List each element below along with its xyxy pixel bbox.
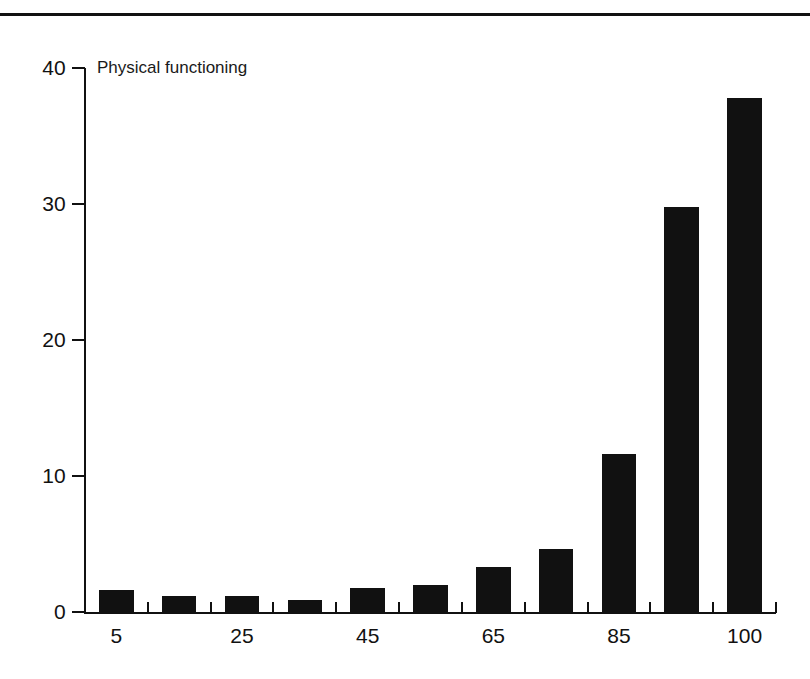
x-tick-label: 100 <box>705 624 785 648</box>
bar <box>225 596 260 612</box>
bar <box>602 454 637 612</box>
y-tick-mark <box>72 475 85 477</box>
bar <box>350 588 385 612</box>
x-tick-label: 85 <box>579 624 659 648</box>
x-tick-label: 65 <box>453 624 533 648</box>
x-tick-label: 45 <box>328 624 408 648</box>
y-tick-mark <box>72 67 85 69</box>
y-tick-label: 10 <box>6 465 66 486</box>
y-tick-label: 20 <box>6 329 66 350</box>
y-tick-label: 30 <box>6 193 66 214</box>
bar <box>413 585 448 612</box>
y-tick-mark <box>72 203 85 205</box>
y-tick-label: 40 <box>6 57 66 78</box>
x-tick-mark <box>775 602 777 613</box>
bar <box>288 600 323 612</box>
y-tick-mark <box>72 339 85 341</box>
bar <box>539 549 574 612</box>
bar <box>727 98 762 612</box>
bar <box>476 567 511 612</box>
plot-area <box>85 68 775 612</box>
chart-page: Physical functioning 010203040 525456585… <box>0 0 810 679</box>
bar <box>664 207 699 612</box>
bar <box>99 590 134 612</box>
bar <box>162 596 197 612</box>
bar-chart: Physical functioning 010203040 525456585… <box>0 16 810 679</box>
y-tick-label: 0 <box>6 601 66 622</box>
x-axis-line <box>84 612 776 614</box>
x-tick-label: 25 <box>202 624 282 648</box>
x-tick-label: 5 <box>76 624 156 648</box>
